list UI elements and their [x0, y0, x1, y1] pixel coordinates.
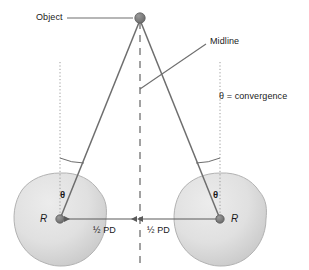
object-point-dot — [135, 13, 145, 23]
left-convergence-ray — [60, 20, 140, 219]
half-pd-left-label: ½ PD — [93, 226, 116, 235]
theta-right-label: θ — [213, 190, 218, 200]
midline-label: Midline — [210, 37, 239, 46]
nodal-point-right-label: R — [231, 214, 238, 224]
nodal-point-left-label: R — [40, 214, 47, 224]
theta-left-label: θ — [60, 190, 65, 200]
right-angle-arc — [196, 158, 220, 163]
left-nodal-point-dot — [56, 215, 64, 223]
half-pd-right-label: ½ PD — [147, 226, 170, 235]
convergence-key-label: θ = convergence — [219, 92, 287, 101]
object-label: Object — [36, 13, 63, 22]
midline-leader-line — [140, 44, 206, 89]
right-nodal-point-dot — [216, 215, 224, 223]
convergence-diagram: Object Midline θ = convergence θ θ R R ½… — [0, 0, 309, 270]
right-convergence-ray — [140, 20, 220, 219]
left-angle-arc — [60, 158, 84, 163]
